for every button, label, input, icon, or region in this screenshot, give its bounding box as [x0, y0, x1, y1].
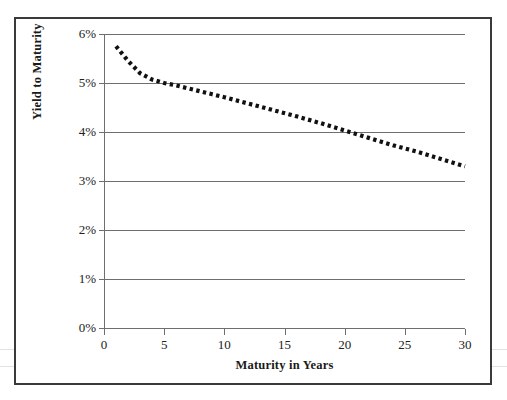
x-tick-label: 0	[84, 338, 124, 351]
x-tick-mark	[465, 329, 466, 335]
x-tick-label: 25	[385, 338, 425, 351]
y-tick-mark	[99, 181, 105, 182]
y-tick-label: 6%	[56, 27, 96, 40]
y-tick-label: 2%	[56, 223, 96, 236]
x-tick-label: 10	[204, 338, 244, 351]
y-tick-mark	[99, 230, 105, 231]
x-axis-title: Maturity in Years	[104, 358, 465, 373]
x-tick-mark	[164, 329, 165, 335]
y-tick-label: 4%	[56, 125, 96, 138]
y-tick-label: 5%	[56, 76, 96, 89]
x-tick-mark	[104, 329, 105, 335]
x-tick-mark	[224, 329, 225, 335]
y-tick-label: 0%	[56, 321, 96, 334]
x-tick-mark	[405, 329, 406, 335]
gridline-horizontal	[104, 83, 465, 84]
y-axis-title: Yield to Maturity	[30, 0, 45, 120]
x-tick-label: 20	[325, 338, 365, 351]
gridline-horizontal	[104, 230, 465, 231]
y-tick-mark	[99, 83, 105, 84]
x-tick-label: 30	[445, 338, 485, 351]
plot-area	[104, 34, 465, 328]
gridline-horizontal	[104, 279, 465, 280]
y-tick-mark	[99, 34, 105, 35]
x-tick-label: 15	[265, 338, 305, 351]
chart-screenshot: 0%1%2%3%4%5%6% 051015202530 Maturity in …	[0, 0, 507, 400]
x-tick-mark	[345, 329, 346, 335]
y-tick-label: 3%	[56, 174, 96, 187]
x-tick-label: 5	[144, 338, 184, 351]
y-tick-label: 1%	[56, 272, 96, 285]
x-tick-mark	[285, 329, 286, 335]
y-tick-mark	[99, 132, 105, 133]
y-tick-mark	[99, 279, 105, 280]
gridline-horizontal	[104, 132, 465, 133]
gridline-horizontal	[104, 181, 465, 182]
gridline-horizontal	[104, 34, 465, 35]
